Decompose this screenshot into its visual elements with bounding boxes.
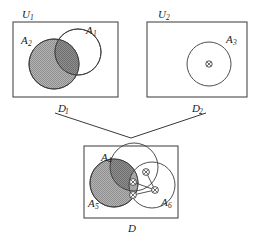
set-diagram-figure: U 1 A 1 A 2 D 1 U 2 A 3 D [0, 0, 260, 241]
panel-u2: U 2 A 3 D 2 [147, 8, 247, 116]
set-label-a1: A [85, 24, 93, 36]
set-label-a3: A [225, 33, 233, 45]
set-sub-a6: 6 [168, 201, 172, 210]
diagram-caption-sub-d1: 1 [65, 107, 69, 116]
panel-u1: U 1 A 1 A 2 D 1 [13, 8, 118, 116]
universe-sub-u1: 1 [30, 13, 34, 22]
set-sub-a1: 1 [93, 29, 97, 38]
point-marker-1 [143, 169, 150, 176]
set-label-a4: A [100, 151, 108, 163]
set-sub-a5: 5 [95, 202, 99, 211]
universe-sub-u2: 2 [166, 13, 170, 22]
set-sub-a3: 3 [232, 38, 237, 47]
diagram-caption-d: D [127, 222, 136, 234]
set-label-a6: A [160, 196, 168, 208]
merge-connector [55, 113, 206, 138]
set-label-a5: A [87, 197, 95, 209]
point-marker-4 [152, 187, 159, 194]
set-sub-a4: 4 [108, 156, 112, 165]
point-marker-2 [130, 179, 137, 186]
set-sub-a2: 2 [28, 39, 32, 48]
set-label-a2: A [20, 34, 28, 46]
point-marker-3 [130, 192, 137, 199]
point-marker-a3 [206, 61, 212, 67]
panel-d: A 4 A 5 A 6 D [84, 143, 178, 234]
